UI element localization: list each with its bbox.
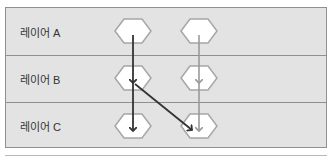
divider [5,155,327,156]
diagram-graphics [0,0,332,164]
